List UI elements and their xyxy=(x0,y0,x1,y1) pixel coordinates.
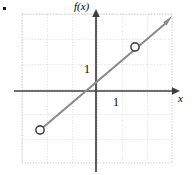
bullet-mark xyxy=(3,7,6,10)
graph-figure: f(x) x 1 1 xyxy=(0,0,195,175)
y-unit-tick-label: 1 xyxy=(84,63,90,75)
graph-canvas xyxy=(0,0,195,175)
x-unit-tick-label: 1 xyxy=(113,96,119,108)
function-axis-label: f(x) xyxy=(74,1,89,12)
open-point-upper-right xyxy=(131,43,139,51)
x-axis-label: x xyxy=(178,93,183,104)
open-point-lower-left xyxy=(36,126,44,134)
